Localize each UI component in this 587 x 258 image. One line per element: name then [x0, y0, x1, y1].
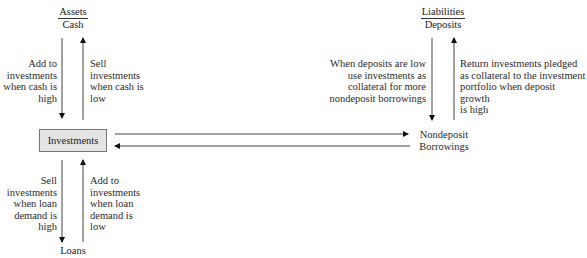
nondeposit-line: Nondeposit [413, 129, 475, 141]
cash-label: Cash [48, 19, 98, 31]
deposit-down-note: When deposits are low use investments as… [300, 58, 426, 104]
note-line: portfolio when deposit growth [460, 81, 587, 104]
note-line: when cash is [90, 81, 160, 93]
note-line: investments [90, 187, 160, 199]
assets-cash-header: Assets Cash [48, 6, 98, 31]
note-line: Return investments pledged [460, 58, 587, 70]
note-line: investments [0, 187, 57, 199]
note-line: demand is [90, 210, 160, 222]
deposits-label: Deposits [413, 19, 473, 31]
note-line: nondeposit borrowings [300, 93, 426, 105]
note-line: investments [0, 70, 57, 82]
loan-up-note: Add to investments when loan demand is l… [90, 175, 160, 233]
investments-box: Investments [39, 129, 107, 152]
note-line: is high [460, 104, 587, 116]
note-line: Add to [90, 175, 160, 187]
cash-down-note: Add to investments when cash is high [0, 58, 57, 104]
note-line: when cash is [0, 81, 57, 93]
note-line: Sell [90, 58, 160, 70]
note-line: when loan [90, 198, 160, 210]
note-line: low [90, 93, 160, 105]
note-line: high [0, 93, 57, 105]
nondeposit-borrowings-label: Nondeposit Borrowings [413, 129, 475, 152]
note-line: as collateral to the investment [460, 70, 587, 82]
loans-label: Loans [48, 245, 98, 257]
note-line: Add to [0, 58, 57, 70]
cash-up-note: Sell investments when cash is low [90, 58, 160, 104]
note-line: Sell [0, 175, 57, 187]
investments-label: Investments [48, 135, 99, 146]
borrowings-line: Borrowings [413, 141, 475, 153]
assets-heading: Assets [58, 6, 87, 19]
note-line: high [0, 221, 57, 233]
note-line: when loan [0, 198, 57, 210]
liabilities-deposits-header: Liabilities Deposits [413, 6, 473, 31]
note-line: When deposits are low [300, 58, 426, 70]
liabilities-heading: Liabilities [421, 6, 466, 19]
loan-down-note: Sell investments when loan demand is hig… [0, 175, 57, 233]
note-line: collateral for more [300, 81, 426, 93]
note-line: demand is [0, 210, 57, 222]
note-line: investments [90, 70, 160, 82]
note-line: low [90, 221, 160, 233]
deposit-up-note: Return investments pledged as collateral… [460, 58, 587, 116]
note-line: use investments as [300, 70, 426, 82]
